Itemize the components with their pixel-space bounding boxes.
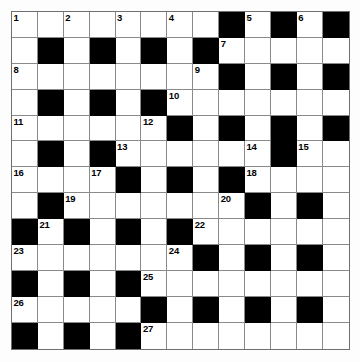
letter-cell[interactable]: 12	[141, 116, 167, 142]
letter-cell[interactable]	[38, 297, 64, 323]
letter-cell[interactable]	[193, 167, 219, 193]
letter-cell[interactable]: 7	[219, 38, 245, 64]
letter-cell[interactable]: 9	[193, 64, 219, 90]
letter-cell[interactable]	[90, 64, 116, 90]
letter-cell[interactable]: 22	[193, 219, 219, 245]
letter-cell[interactable]	[167, 297, 193, 323]
letter-cell[interactable]	[12, 90, 38, 116]
letter-cell[interactable]: 26	[12, 297, 38, 323]
letter-cell[interactable]: 16	[12, 167, 38, 193]
letter-cell[interactable]	[141, 193, 167, 219]
letter-cell[interactable]	[64, 141, 90, 167]
letter-cell[interactable]: 19	[64, 193, 90, 219]
letter-cell[interactable]	[219, 90, 245, 116]
letter-cell[interactable]	[38, 116, 64, 142]
letter-cell[interactable]	[323, 193, 349, 219]
letter-cell[interactable]	[116, 64, 142, 90]
letter-cell[interactable]	[323, 141, 349, 167]
letter-cell[interactable]: 6	[297, 12, 323, 38]
letter-cell[interactable]	[245, 90, 271, 116]
letter-cell[interactable]: 25	[141, 271, 167, 297]
letter-cell[interactable]	[245, 219, 271, 245]
letter-cell[interactable]	[116, 90, 142, 116]
letter-cell[interactable]	[271, 297, 297, 323]
letter-cell[interactable]	[245, 64, 271, 90]
letter-cell[interactable]: 18	[245, 167, 271, 193]
letter-cell[interactable]: 17	[90, 167, 116, 193]
letter-cell[interactable]	[90, 116, 116, 142]
letter-cell[interactable]	[297, 323, 323, 349]
letter-cell[interactable]: 10	[167, 90, 193, 116]
letter-cell[interactable]: 1	[12, 12, 38, 38]
letter-cell[interactable]	[219, 271, 245, 297]
letter-cell[interactable]	[323, 38, 349, 64]
letter-cell[interactable]: 23	[12, 245, 38, 271]
letter-cell[interactable]	[64, 116, 90, 142]
letter-cell[interactable]	[297, 90, 323, 116]
letter-cell[interactable]	[90, 323, 116, 349]
letter-cell[interactable]	[219, 219, 245, 245]
letter-cell[interactable]	[193, 116, 219, 142]
letter-cell[interactable]	[193, 193, 219, 219]
letter-cell[interactable]	[38, 245, 64, 271]
letter-cell[interactable]	[271, 193, 297, 219]
letter-cell[interactable]: 3	[116, 12, 142, 38]
letter-cell[interactable]	[245, 323, 271, 349]
letter-cell[interactable]	[193, 323, 219, 349]
letter-cell[interactable]: 14	[245, 141, 271, 167]
letter-cell[interactable]	[297, 271, 323, 297]
letter-cell[interactable]: 8	[12, 64, 38, 90]
letter-cell[interactable]	[64, 245, 90, 271]
letter-cell[interactable]	[116, 297, 142, 323]
letter-cell[interactable]	[323, 219, 349, 245]
letter-cell[interactable]: 21	[38, 219, 64, 245]
letter-cell[interactable]	[193, 90, 219, 116]
letter-cell[interactable]: 20	[219, 193, 245, 219]
letter-cell[interactable]	[271, 167, 297, 193]
letter-cell[interactable]: 13	[116, 141, 142, 167]
letter-cell[interactable]	[219, 323, 245, 349]
letter-cell[interactable]	[193, 12, 219, 38]
letter-cell[interactable]	[297, 64, 323, 90]
letter-cell[interactable]	[167, 193, 193, 219]
letter-cell[interactable]	[64, 167, 90, 193]
letter-cell[interactable]	[141, 167, 167, 193]
letter-cell[interactable]	[271, 323, 297, 349]
letter-cell[interactable]	[116, 116, 142, 142]
letter-cell[interactable]	[12, 38, 38, 64]
letter-cell[interactable]	[141, 245, 167, 271]
letter-cell[interactable]	[141, 12, 167, 38]
letter-cell[interactable]	[323, 90, 349, 116]
letter-cell[interactable]	[90, 297, 116, 323]
letter-cell[interactable]	[141, 219, 167, 245]
letter-cell[interactable]	[167, 64, 193, 90]
letter-cell[interactable]	[116, 245, 142, 271]
letter-cell[interactable]	[90, 193, 116, 219]
letter-cell[interactable]: 5	[245, 12, 271, 38]
letter-cell[interactable]	[64, 297, 90, 323]
letter-cell[interactable]	[90, 245, 116, 271]
letter-cell[interactable]	[323, 323, 349, 349]
letter-cell[interactable]	[323, 167, 349, 193]
letter-cell[interactable]: 4	[167, 12, 193, 38]
letter-cell[interactable]	[38, 271, 64, 297]
letter-cell[interactable]	[193, 141, 219, 167]
letter-cell[interactable]	[90, 219, 116, 245]
letter-cell[interactable]	[38, 64, 64, 90]
letter-cell[interactable]	[245, 271, 271, 297]
letter-cell[interactable]	[90, 12, 116, 38]
letter-cell[interactable]	[219, 141, 245, 167]
letter-cell[interactable]	[297, 219, 323, 245]
letter-cell[interactable]	[271, 271, 297, 297]
letter-cell[interactable]: 24	[167, 245, 193, 271]
letter-cell[interactable]: 15	[297, 141, 323, 167]
letter-cell[interactable]	[38, 12, 64, 38]
letter-cell[interactable]	[297, 38, 323, 64]
letter-cell[interactable]	[167, 141, 193, 167]
letter-cell[interactable]	[167, 323, 193, 349]
letter-cell[interactable]	[64, 64, 90, 90]
letter-cell[interactable]	[141, 64, 167, 90]
letter-cell[interactable]	[90, 271, 116, 297]
letter-cell[interactable]	[116, 38, 142, 64]
letter-cell[interactable]	[167, 271, 193, 297]
